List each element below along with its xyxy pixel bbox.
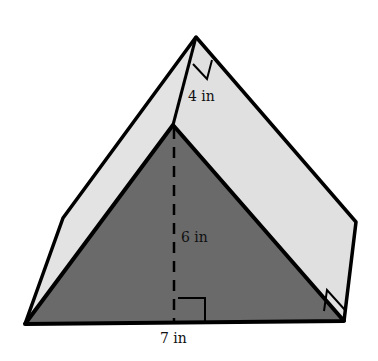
- prism-diagram: 4 in 6 in 7 in: [0, 0, 378, 361]
- prism-figure: [0, 0, 378, 361]
- slant-length-label: 4 in: [188, 88, 215, 104]
- base-label: 7 in: [160, 330, 187, 346]
- height-label: 6 in: [181, 229, 208, 245]
